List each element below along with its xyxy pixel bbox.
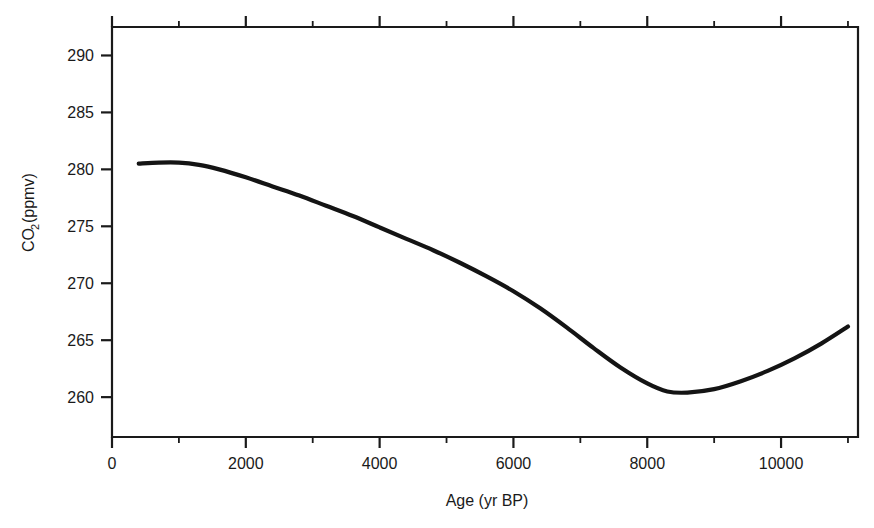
co2-age-line-chart: 0200040006000800010000 26026527027528028…	[0, 0, 874, 528]
y-axis-title-main: CO	[20, 228, 37, 252]
y-tick-label: 290	[67, 47, 94, 64]
plot-frame	[112, 27, 858, 437]
x-tick-labels: 0200040006000800010000	[108, 455, 804, 472]
y-tick-label: 265	[67, 332, 94, 349]
x-tick-label: 8000	[629, 455, 665, 472]
frame-rectangle	[112, 27, 858, 437]
figure-container: 0200040006000800010000 26026527027528028…	[0, 0, 874, 528]
x-tick-label: 4000	[362, 455, 398, 472]
x-tick-label: 10000	[759, 455, 804, 472]
y-axis-title-units: (ppmv)	[20, 173, 37, 223]
y-tick-label: 270	[67, 275, 94, 292]
y-axis-title-group: CO 2 (ppmv)	[20, 173, 41, 252]
y-tick-label: 280	[67, 161, 94, 178]
y-tick-labels: 260265270275280285290	[67, 47, 94, 406]
y-tick-label: 285	[67, 104, 94, 121]
x-tick-label: 6000	[496, 455, 532, 472]
y-axis-title-subscript: 2	[29, 224, 41, 230]
x-tick-label: 0	[108, 455, 117, 472]
x-tick-label: 2000	[228, 455, 264, 472]
y-tick-label: 275	[67, 218, 94, 235]
x-axis-title: Age (yr BP)	[446, 492, 529, 509]
co2-data-curve	[139, 162, 848, 392]
y-tick-label: 260	[67, 389, 94, 406]
